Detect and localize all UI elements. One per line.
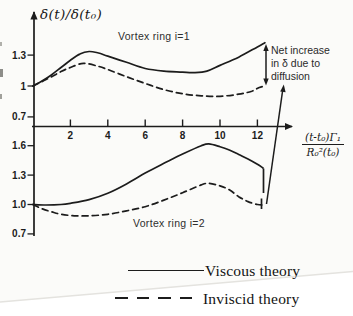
y-tick-label: 1.3 [12, 170, 26, 181]
x-tick-label: 10 [214, 130, 226, 141]
y-tick-label: 0.7 [12, 111, 26, 122]
scan-speck [0, 69, 3, 77]
y-tick-label: 1.6 [12, 140, 26, 151]
x-tick-label: 8 [180, 130, 186, 141]
scan-speck [0, 94, 2, 99]
legend-inviscid-label: Inviscid theory [203, 290, 299, 308]
plot1-gap-arrowhead-down [263, 79, 268, 86]
plot-layer: 246810121.310.71.61.31.00.7 [12, 43, 265, 240]
plot2-viscous-curve [33, 144, 263, 205]
plot2-title: Vortex ring i=2 [133, 217, 205, 229]
legend-viscous-label: Viscous theory [205, 262, 300, 280]
x-tick-label: 4 [105, 130, 111, 141]
scan-speck [0, 42, 2, 46]
annotation-arrow-shaft [267, 88, 284, 204]
plot1-title: Vortex ring i=1 [118, 30, 190, 42]
plot2-inviscid-curve [33, 183, 263, 216]
scanned-figure-page: 246810121.310.71.61.31.00.7 δ(t)/δ(t₀) V… [0, 0, 353, 316]
y-tick-label: 1.0 [12, 199, 26, 210]
plot1-inviscid-curve [33, 63, 265, 96]
legend-viscous-line-swatch [128, 270, 204, 271]
plot1-viscous-curve [33, 43, 265, 86]
annotation-arrowhead [280, 85, 285, 93]
x-tick-label: 6 [142, 130, 148, 141]
y-axis-title: δ(t)/δ(t₀) [40, 6, 102, 22]
x-axis-label-numerator: (t-t₀)Γ₁ [302, 131, 344, 145]
x-tick-label: 2 [68, 130, 74, 141]
x-tick-label: 12 [252, 130, 264, 141]
x-axis-label: (t-t₀)Γ₁ R₀²(t₀) [297, 127, 349, 158]
y-tick-label: 1.3 [12, 50, 26, 61]
x-axis-label-denominator: R₀²(t₀) [297, 145, 349, 158]
y-tick-label: 0.7 [12, 228, 26, 239]
net-increase-annotation: Net increase in δ due to diffusion [271, 44, 347, 83]
y-tick-label: 1 [20, 81, 26, 92]
legend-inviscid-line-swatch [115, 297, 199, 299]
plot1-gap-arrowhead-up [263, 44, 268, 51]
